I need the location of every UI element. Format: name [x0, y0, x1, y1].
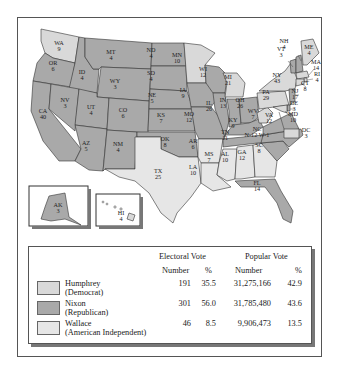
- ev-pct: 56.0: [201, 299, 216, 308]
- pop-pct: 13.5: [287, 319, 302, 328]
- state-WY[interactable]: [97, 67, 151, 101]
- candidate-name: Nixon(Republican): [65, 299, 108, 317]
- pop-number: 31,275,166: [234, 279, 271, 288]
- legend-table: Electoral Vote Popular Vote Number % Num…: [28, 246, 312, 344]
- header-electoral-vote: Electoral Vote: [159, 252, 206, 261]
- subheader-pop-number: Number: [235, 266, 262, 275]
- pop-pct: 42.9: [287, 279, 302, 288]
- svg-text:CT8: CT8: [301, 79, 309, 92]
- svg-text:IN13: IN13: [220, 96, 227, 109]
- nixon-swatch: [37, 301, 60, 315]
- ev-number: 191: [179, 279, 191, 288]
- svg-text:FL14: FL14: [253, 179, 260, 192]
- pop-pct: 43.6: [287, 299, 302, 308]
- pop-number: 9,906,473: [238, 319, 271, 328]
- svg-text:IL26: IL26: [206, 99, 212, 112]
- svg-text:PA29: PA29: [262, 88, 270, 101]
- svg-text:RI4: RI4: [314, 70, 320, 83]
- subheader-pop-pct: %: [295, 266, 302, 275]
- wallace-swatch: [37, 321, 60, 335]
- subheader-ev-number: Number: [162, 266, 189, 275]
- us-electoral-map: WA9 OR6 CA40 ID4 NV3 MT4 WY3 UT4 AZ5 CO6…: [18, 18, 323, 246]
- candidate-name: Wallace(American Independent): [65, 319, 146, 337]
- svg-text:MI21: MI21: [224, 73, 232, 86]
- humphrey-swatch: [37, 281, 60, 295]
- svg-text:WI12: WI12: [199, 65, 207, 78]
- legend-row-nixon: Nixon(Republican) 301 56.0 31,785,480 43…: [29, 299, 311, 321]
- header-popular-vote: Popular Vote: [245, 252, 288, 261]
- svg-text:DC3: DC3: [302, 126, 311, 139]
- subheader-ev-pct: %: [205, 266, 212, 275]
- ev-number: 301: [179, 299, 191, 308]
- pop-number: 31,785,480: [234, 299, 271, 308]
- state-NM[interactable]: [103, 130, 137, 171]
- ev-pct: 35.5: [201, 279, 216, 288]
- state-FL[interactable]: [235, 179, 293, 223]
- ev-number: 46: [183, 319, 191, 328]
- svg-text:AL10: AL10: [221, 150, 229, 163]
- candidate-name: Humphrey(Democrat): [65, 279, 103, 297]
- state-VT[interactable]: [290, 59, 296, 73]
- legend-row-wallace: Wallace(American Independent) 46 8.5 9,9…: [29, 319, 311, 341]
- ev-pct: 8.5: [206, 319, 216, 328]
- state-DC[interactable]: [284, 129, 299, 138]
- legend-row-humphrey: Humphrey(Democrat) 191 35.5 31,275,166 4…: [29, 279, 311, 301]
- state-MT[interactable]: [85, 38, 152, 69]
- svg-text:MD10: MD10: [288, 110, 299, 123]
- state-CO[interactable]: [107, 98, 149, 133]
